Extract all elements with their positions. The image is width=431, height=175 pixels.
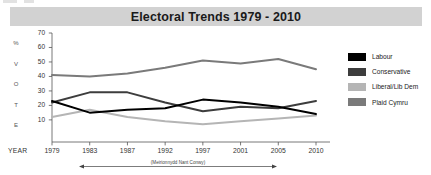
x-tick-label: 1992 [150,147,180,154]
footnote-span: (Meirionnydd Nant Conwy) [78,160,278,172]
y-tick-label: 70 [29,29,45,36]
series-line-plaid-cymru [52,59,316,76]
axis-lines [52,33,330,142]
x-tick-label: 2005 [263,147,293,154]
x-tick-label: 1979 [37,147,67,154]
y-tick-label: 10 [29,116,45,123]
x-axis-caption: YEAR [8,147,27,154]
electoral-trends-figure: Electoral Trends 1979 - 2010 % V O T E 1… [0,0,431,175]
legend-item-label: Plaid Cymru [372,99,408,106]
legend-item-label: Liberal/Lib Dem [372,83,418,90]
x-tick-label: 2001 [226,147,256,154]
legend-swatch-icon [348,83,366,91]
x-tick-label: 1987 [112,147,142,154]
legend-item: Labour [348,49,418,64]
y-tick-label: 30 [29,87,45,94]
x-tick-label: 1983 [75,147,105,154]
x-tick-label: 1997 [188,147,218,154]
chart-legend: LabourConservativeLiberal/Lib DemPlaid C… [348,49,418,110]
y-tick-label: 40 [29,72,45,79]
y-tick-label: 50 [29,58,45,65]
x-tick-label: 2010 [301,147,331,154]
legend-item-label: Labour [372,53,393,60]
y-tick-label: 20 [29,101,45,108]
legend-swatch-icon [348,68,366,76]
legend-item-label: Conservative [372,68,410,75]
legend-item: Plaid Cymru [348,95,418,110]
legend-swatch-icon [348,53,366,61]
y-tick-label: 60 [29,43,45,50]
legend-item: Conservative [348,64,418,79]
footnote-text: (Meirionnydd Nant Conwy) [149,160,207,165]
legend-item: Liberal/Lib Dem [348,79,418,94]
series-line-conservative [52,92,316,111]
legend-swatch-icon [348,98,366,106]
